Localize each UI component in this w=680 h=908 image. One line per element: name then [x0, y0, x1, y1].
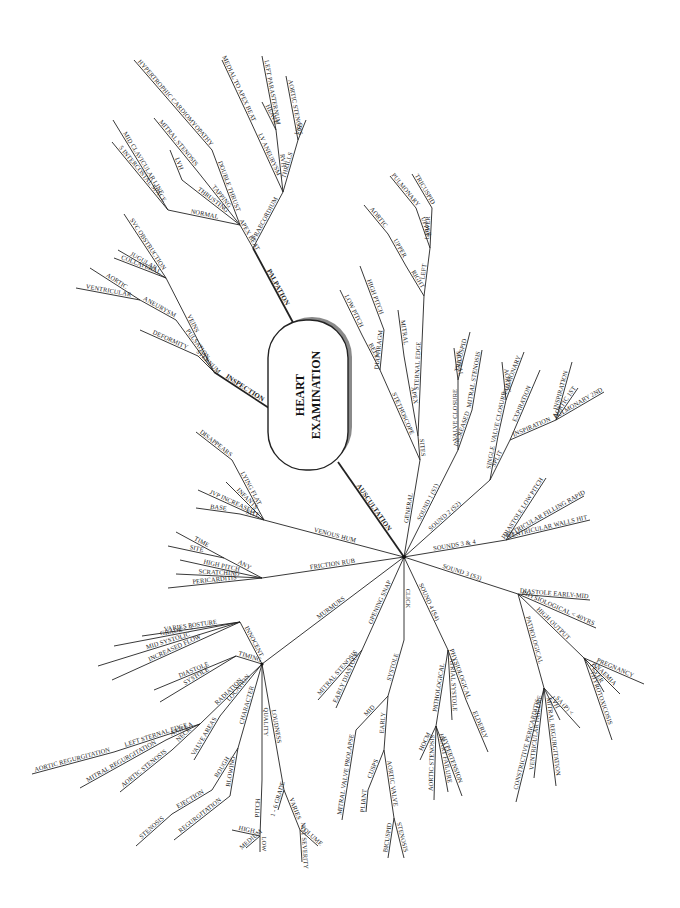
branch-label-a-aorticvalve: AORTIC VALVE: [386, 760, 400, 807]
branch-label-p-midclav: MID CLAVICULAR LINE: [122, 130, 166, 195]
branch-label-a-s1: SOUND 1 (S1): [415, 482, 440, 522]
auscultation-hub: [402, 555, 406, 559]
branch-label-a-aortic-site: AORTIC: [369, 205, 390, 228]
branch-label-m-valveareas: VALVE AREAS: [189, 715, 217, 756]
branch-line-a-opensnap: [362, 557, 404, 650]
branch-label-m-varies: VARIES: [288, 797, 303, 821]
branch-label-a-expiration: EXPIRATION: [510, 384, 532, 423]
branch-line-p-medial: [222, 60, 250, 120]
branch-label-a-systole-c: SYSTOLE: [385, 652, 400, 681]
branch-label-a-as4: AORTIC STENOSIS: [427, 734, 435, 791]
branch-label-a-patho4: PATHOLOGICAL: [431, 663, 446, 713]
branch-label-palpation: PALPATION: [265, 268, 291, 308]
murmurs-hub: [260, 662, 263, 665]
center-node: HEART EXAMINATION: [268, 317, 352, 470]
branch-line-a-murmurs: [262, 557, 404, 664]
branch-label-p-medial: MEDIAL TO APEX BEAT: [221, 54, 258, 122]
branch-label-v-disappears: DISAPPEARS: [199, 428, 235, 458]
branch-label-a-stenosis-c: STENOSIS: [396, 821, 410, 853]
branch-label-a-sites: SITES: [419, 439, 427, 457]
center-title-line-1: HEART: [293, 374, 307, 416]
branch-label-a-friction: FRICTION RUB: [309, 557, 355, 571]
branch-line-p-lvaneurysm: [250, 120, 283, 192]
branch-label-a-s3: SOUND 3 (S3): [442, 562, 483, 582]
branch-label-auscultation: AUSCULTATION: [355, 482, 393, 532]
branch-label-m-low: LOW: [261, 837, 268, 853]
branch-label-m-quality: QUALITY: [263, 707, 270, 736]
branch-label-a-highpitch: HIGH PITCH: [366, 278, 386, 315]
branch-label-a-mr3: MITRAL REGURGITATION: [546, 697, 563, 776]
branch-label-m-pitch: PITCH: [253, 798, 261, 817]
heart-examination-mind-map: INSPECTIONSTERNUMDEFORMITYPULSATIONANEUR…: [0, 0, 680, 908]
branch-label-a-patho3: PATHOLOGICAL: [525, 615, 545, 664]
branch-label-a-s2: SOUND 2 (S2): [427, 499, 463, 532]
branch-label-a-cusps: CUSPS: [365, 758, 379, 780]
branch-label-a-lowpitch: LOW PITCH: [344, 293, 366, 328]
branch-label-a-ms: MITRAL STENOSIS: [465, 350, 481, 408]
branch-label-a-lower: LOWER: [423, 215, 431, 239]
branch-label-a-mitral-site: MITRAL: [400, 320, 410, 346]
center-node-box: [268, 320, 348, 470]
branch-label-p-praecordium: PRAECORDIUM: [250, 195, 279, 240]
branch-label-a-s34: SOUNDS 3 & 4: [433, 537, 477, 551]
branch-label-i-aneurysm: ANEURYSM: [142, 295, 177, 319]
branch-label-a-opensnap: OPENING SNAP: [366, 579, 392, 625]
branch-label-inspection: INSPECTION: [224, 373, 266, 404]
branch-label-m-stenosis: STENOSIS: [138, 814, 166, 840]
branch-label-m-grade: 1 - 6 GRADE: [269, 780, 286, 817]
branch-label-a-murmurs: MURMURS: [315, 594, 346, 620]
branch-label-a-s4: SOUND 4 (S4): [417, 582, 442, 622]
center-title-line-2: EXAMINATION: [309, 350, 323, 439]
branch-label-a-click: CLICK: [405, 589, 412, 609]
branch-label-m-ejection: EJECTION: [175, 788, 205, 810]
